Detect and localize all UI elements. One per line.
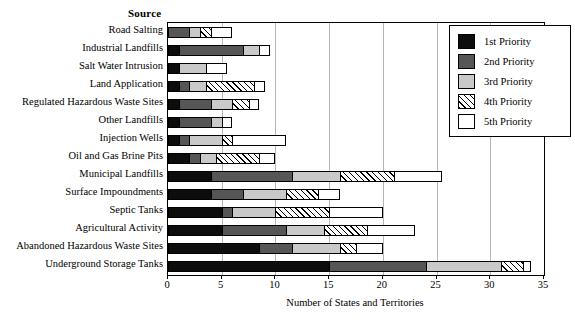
bar-segment-p3 — [232, 207, 275, 218]
bar-segment-p2 — [179, 117, 211, 128]
bar-segment-p5 — [211, 27, 232, 38]
segment-divider — [179, 117, 180, 128]
segment-divider — [394, 171, 395, 182]
x-tick-label: 35 — [538, 279, 549, 290]
bar-segment-p5 — [523, 261, 532, 272]
legend: 1st Priority2nd Priority3rd Priority4th … — [449, 25, 571, 137]
bar-segment-p1 — [168, 81, 179, 92]
category-label: Surface Impoundments — [0, 187, 163, 198]
bar-segment-p5 — [394, 171, 442, 182]
segment-divider — [259, 153, 260, 164]
segment-divider — [222, 207, 223, 218]
bar-segment-p1 — [168, 261, 329, 272]
x-axis-title: Number of States and Territories — [167, 297, 543, 308]
segment-divider — [243, 189, 244, 200]
legend-label: 5th Priority — [484, 116, 532, 127]
bar-segment-p5 — [367, 225, 415, 236]
bar-segment-p3 — [179, 63, 206, 74]
gridline — [329, 23, 330, 275]
bar-segment-p3 — [243, 189, 286, 200]
bar-segment-p3 — [189, 135, 221, 146]
source-column-header: Source — [128, 7, 161, 19]
bar-segment-p5 — [329, 207, 383, 218]
bar-segment-p3 — [189, 27, 200, 38]
legend-label: 1st Priority — [484, 36, 531, 47]
bar-segment-p1 — [168, 207, 222, 218]
segment-divider — [292, 171, 293, 182]
bar-segment-p3 — [292, 171, 340, 182]
segment-divider — [356, 243, 357, 254]
segment-divider — [254, 81, 255, 92]
bar-segment-p5 — [259, 45, 270, 56]
segment-divider — [200, 153, 201, 164]
segment-divider — [206, 63, 207, 74]
x-tick-label: 30 — [484, 279, 495, 290]
x-tick-label: 5 — [218, 279, 223, 290]
segment-divider — [340, 171, 341, 182]
bar-segment-p3 — [243, 45, 259, 56]
bar-segment-p2 — [189, 153, 200, 164]
bar-segment-p1 — [168, 99, 179, 110]
x-tick-label: 20 — [377, 279, 388, 290]
bar-segment-p1 — [168, 153, 189, 164]
gridline — [275, 23, 276, 275]
bar-segment-p5 — [206, 63, 227, 74]
legend-item-2[interactable]: 2nd Priority — [458, 52, 534, 70]
segment-divider — [189, 153, 190, 164]
segment-divider — [211, 189, 212, 200]
segment-divider — [179, 99, 180, 110]
legend-swatch-icon-p1 — [458, 34, 475, 49]
bar-segment-p5 — [356, 243, 383, 254]
segment-divider — [232, 207, 233, 218]
category-label: Oil and Gas Brine Pits — [0, 151, 163, 162]
segment-divider — [216, 153, 217, 164]
category-label: Salt Water Intrusion — [0, 61, 163, 72]
bar-segment-p4 — [206, 81, 254, 92]
segment-divider — [232, 135, 233, 146]
segment-divider — [179, 63, 180, 74]
segment-divider — [340, 243, 341, 254]
segment-divider — [189, 135, 190, 146]
segment-divider — [243, 45, 244, 56]
bar-segment-p1 — [168, 189, 211, 200]
segment-divider — [367, 225, 368, 236]
segment-divider — [426, 261, 427, 272]
bar-segment-p1 — [168, 243, 259, 254]
bar-segment-p2 — [259, 243, 291, 254]
bar-segment-p4 — [501, 261, 522, 272]
bar-segment-p2 — [211, 171, 292, 182]
bar-segment-p1 — [168, 135, 179, 146]
segment-divider — [222, 225, 223, 236]
bar-segment-p4 — [340, 171, 394, 182]
legend-item-1[interactable]: 1st Priority — [458, 32, 531, 50]
bar-segment-p3 — [200, 153, 216, 164]
segment-divider — [329, 207, 330, 218]
category-label: Septic Tanks — [0, 205, 163, 216]
bar-segment-p2 — [211, 189, 243, 200]
bar-segment-p4 — [222, 135, 233, 146]
segment-divider — [292, 243, 293, 254]
legend-label: 2nd Priority — [484, 56, 534, 67]
segment-divider — [286, 225, 287, 236]
legend-swatch-icon-p2 — [458, 54, 475, 69]
segment-divider — [222, 135, 223, 146]
bar-segment-p2 — [222, 207, 233, 218]
legend-item-5[interactable]: 5th Priority — [458, 112, 532, 130]
legend-item-4[interactable]: 4th Priority — [458, 92, 532, 110]
bar-segment-p2 — [329, 261, 426, 272]
x-tick-label: 15 — [323, 279, 334, 290]
segment-divider — [211, 117, 212, 128]
legend-swatch-icon-p3 — [458, 74, 475, 89]
x-tick-label: 10 — [269, 279, 280, 290]
bar-segment-p1 — [168, 63, 179, 74]
category-axis-labels: Road SaltingIndustrial LandfillsSalt Wat… — [0, 22, 163, 274]
bar-segment-p2 — [222, 225, 286, 236]
bar-segment-p3 — [426, 261, 501, 272]
x-tick-label: 0 — [164, 279, 169, 290]
bar-segment-p4 — [275, 207, 329, 218]
bar-segment-p2 — [168, 27, 189, 38]
bar-segment-p2 — [179, 135, 190, 146]
bar-segment-p5 — [318, 189, 339, 200]
legend-item-3[interactable]: 3rd Priority — [458, 72, 533, 90]
segment-divider — [179, 81, 180, 92]
